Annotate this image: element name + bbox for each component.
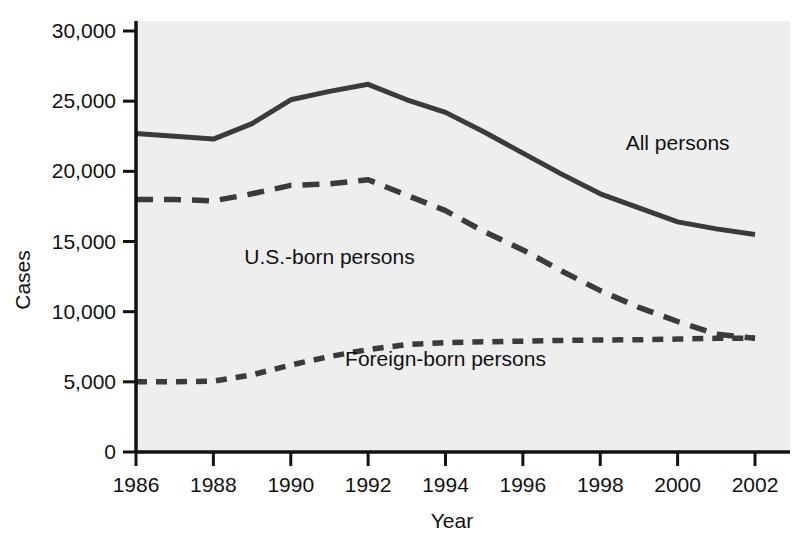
series-label: All persons <box>626 131 730 154</box>
y-tick-label: 25,000 <box>52 89 116 112</box>
x-tick-label: 1988 <box>190 473 237 496</box>
x-tick-label: 1998 <box>577 473 624 496</box>
x-axis-ticks: 198619881990199219941996199820002002 <box>113 452 779 496</box>
y-tick-label: 0 <box>104 440 116 463</box>
x-tick-label: 2002 <box>732 473 779 496</box>
series-label: Foreign-born persons <box>345 347 546 370</box>
x-tick-label: 1992 <box>345 473 392 496</box>
plot-area-background <box>136 21 790 452</box>
chart-figure: 05,00010,00015,00020,00025,00030,000 198… <box>0 0 809 542</box>
y-axis-title: Cases <box>11 250 34 310</box>
y-tick-label: 5,000 <box>63 370 116 393</box>
series-label: U.S.-born persons <box>244 245 414 268</box>
x-tick-label: 1986 <box>113 473 160 496</box>
y-tick-label: 10,000 <box>52 300 116 323</box>
y-axis-ticks: 05,00010,00015,00020,00025,00030,000 <box>52 19 136 463</box>
x-tick-label: 2000 <box>654 473 701 496</box>
x-axis-title: Year <box>431 509 473 532</box>
x-tick-label: 1996 <box>500 473 547 496</box>
y-tick-label: 30,000 <box>52 19 116 42</box>
y-tick-label: 20,000 <box>52 159 116 182</box>
x-tick-label: 1990 <box>267 473 314 496</box>
y-tick-label: 15,000 <box>52 230 116 253</box>
line-chart-svg: 05,00010,00015,00020,00025,00030,000 198… <box>0 0 809 542</box>
x-tick-label: 1994 <box>422 473 469 496</box>
